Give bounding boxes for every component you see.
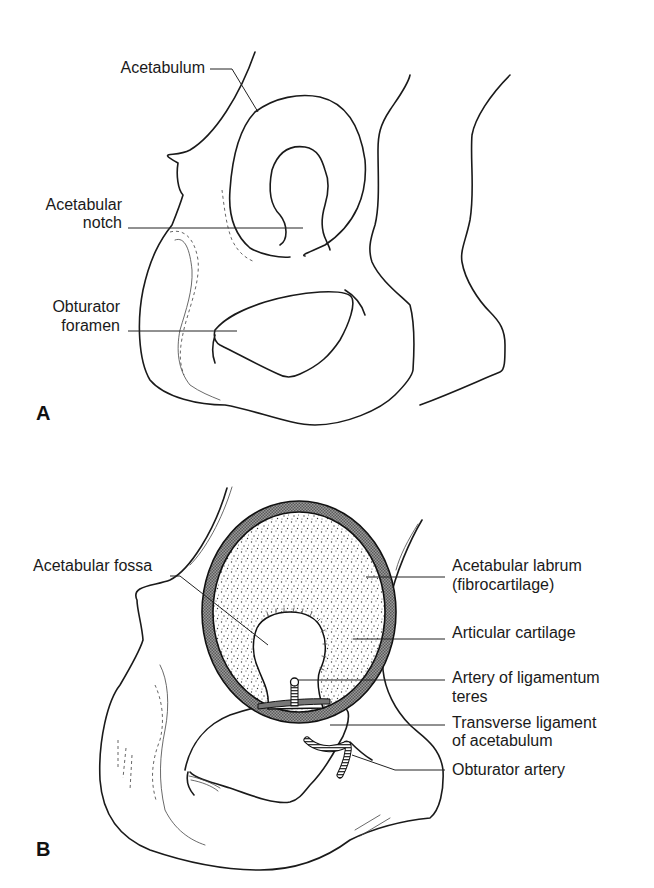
label-acetabulum: Acetabulum xyxy=(121,59,206,76)
ilium-left-edge xyxy=(139,52,414,425)
acetabulum-outer-rim xyxy=(230,96,366,258)
ilium-right-edge-b-double xyxy=(396,524,418,570)
label-acetabular-labrum-line2: (fibrocartilage) xyxy=(452,576,554,593)
panel-b: Acetabular fossa Acetabular labrum (fibr… xyxy=(33,487,600,870)
panel-a: Acetabulum Acetabular notch Obturator fo… xyxy=(36,52,510,425)
leader-obturator-artery xyxy=(352,755,445,770)
obturator-foramen-outline xyxy=(213,292,353,377)
acetabular-notch-outline xyxy=(270,147,330,250)
label-artery-ligamentum-teres-line1: Artery of ligamentum xyxy=(452,669,600,686)
shading-line xyxy=(170,231,198,375)
leader-acetabulum xyxy=(210,69,258,112)
acetabulum-anatomy-figure: Acetabulum Acetabular notch Obturator fo… xyxy=(0,0,654,888)
panel-label-b: B xyxy=(36,838,50,860)
shading-body-3 xyxy=(118,740,132,790)
obturator-groove xyxy=(350,742,372,760)
label-acetabular-notch-line1: Acetabular xyxy=(46,196,123,213)
label-transverse-ligament-line2: of acetabulum xyxy=(452,732,553,749)
label-artery-ligamentum-teres-line2: teres xyxy=(452,688,488,705)
label-acetabular-labrum-line1: Acetabular labrum xyxy=(452,557,582,574)
label-transverse-ligament-line1: Transverse ligament xyxy=(452,714,597,731)
label-obturator-foramen-line1: Obturator xyxy=(52,298,120,315)
artery-lumen-icon xyxy=(291,678,299,686)
ilium-right-edge xyxy=(420,75,510,405)
panel-label-a: A xyxy=(36,402,50,424)
label-acetabular-notch-line2: notch xyxy=(83,214,122,231)
label-acetabular-fossa: Acetabular fossa xyxy=(33,557,152,574)
label-obturator-foramen-line2: foramen xyxy=(61,317,120,334)
shading-line-2 xyxy=(175,239,220,400)
shading-line-3 xyxy=(222,190,255,262)
shading-body-2 xyxy=(160,665,205,845)
label-articular-cartilage: Articular cartilage xyxy=(452,624,576,641)
shading-body-4 xyxy=(355,815,390,836)
label-obturator-artery: Obturator artery xyxy=(452,761,565,778)
